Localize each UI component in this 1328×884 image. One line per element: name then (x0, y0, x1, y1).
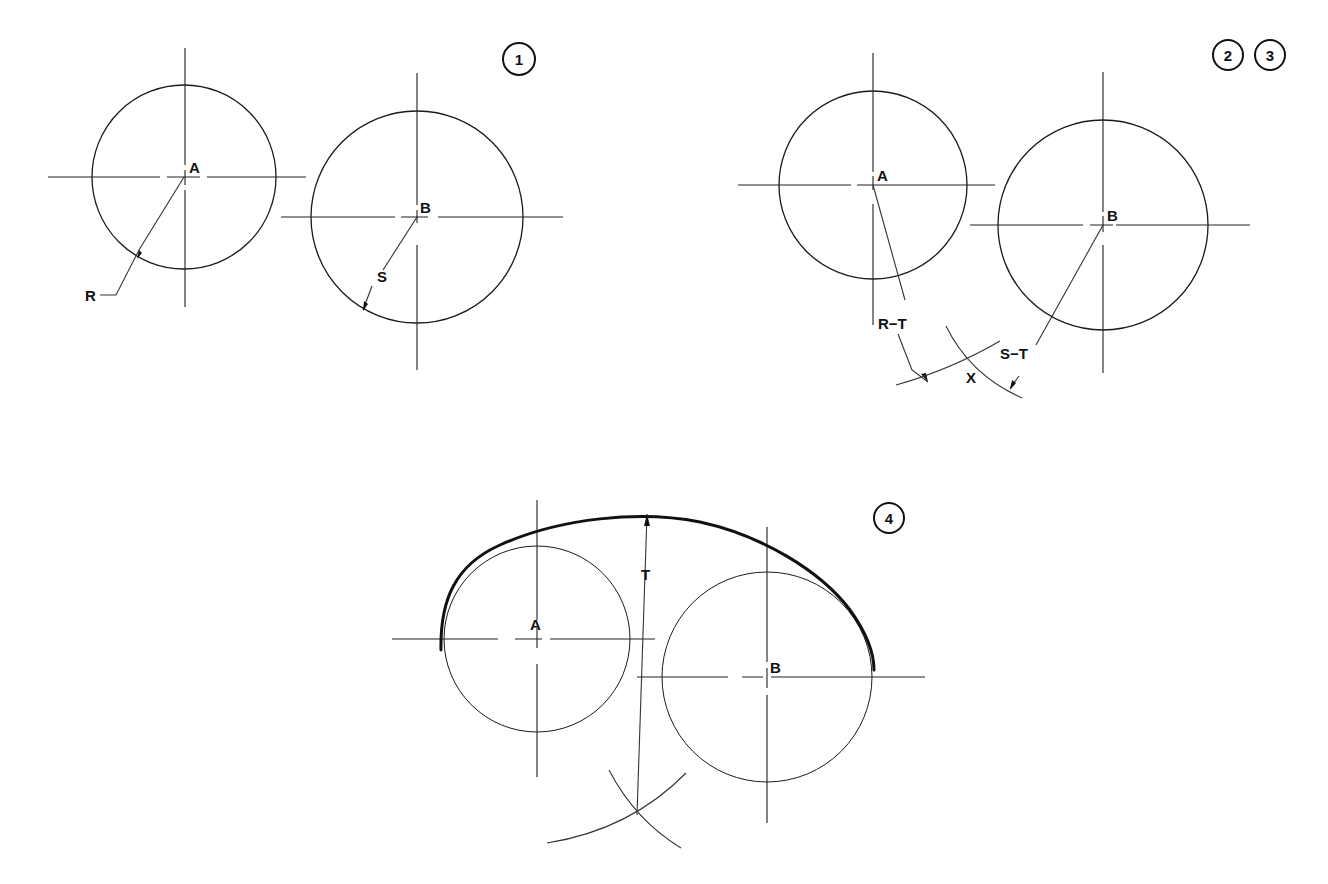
radius-s-leader: S (363, 217, 417, 311)
center-label-a: A (530, 616, 541, 633)
center-label-b: B (770, 659, 781, 676)
circle-a: A (392, 500, 655, 777)
radius-label-t: T (641, 566, 650, 583)
panel-step-2-3: 2 3 A B R−T (738, 40, 1285, 398)
radius-r-leader: R (85, 177, 184, 304)
center-label-b: B (420, 199, 431, 216)
tangent-arc-construction-diagram: 1 A R B S (0, 0, 1328, 884)
center-label-b: B (1107, 207, 1118, 224)
step-badge-3: 3 (1255, 40, 1285, 70)
construction-arcs (547, 770, 686, 848)
circle-b: B (970, 72, 1250, 373)
radius-t-leader: T (637, 514, 650, 815)
circle-a: A (48, 48, 306, 307)
step-badge-2: 2 (1213, 40, 1243, 70)
arc-r-minus-t: R−T (873, 185, 1000, 385)
svg-text:3: 3 (1266, 47, 1274, 64)
circle-a: A (738, 53, 995, 325)
tangent-arc (441, 517, 874, 670)
step-badge-1: 1 (503, 43, 535, 75)
arc-label-r-minus-t: R−T (878, 315, 907, 332)
panel-step-4: 4 A B T (392, 500, 925, 848)
center-label-a: A (877, 167, 888, 184)
intersection-label-x: X (966, 369, 976, 386)
svg-text:2: 2 (1224, 47, 1232, 64)
center-label-a: A (189, 159, 200, 176)
arc-label-s-minus-t: S−T (1000, 345, 1028, 362)
radius-label-r: R (85, 287, 96, 304)
step-badge-4: 4 (874, 503, 904, 533)
svg-text:1: 1 (515, 51, 523, 68)
svg-text:4: 4 (885, 510, 894, 527)
radius-label-s: S (377, 268, 387, 285)
circle-b: B (281, 73, 563, 370)
panel-step-1: 1 A R B S (48, 43, 563, 370)
